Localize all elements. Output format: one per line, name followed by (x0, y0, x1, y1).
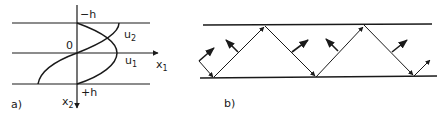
ray-segment-4 (364, 25, 413, 75)
normal-vector-4 (392, 40, 407, 52)
origin-label: 0 (66, 39, 73, 52)
panel-b: b) (199, 24, 437, 110)
bottom-boundary-label: +h (81, 86, 97, 99)
lower-wall (200, 76, 437, 78)
incident-ray (199, 61, 213, 77)
panel-a: −h 0 +h u2 u1 x1 x2 a) (11, 5, 168, 111)
u1-label: u1 (125, 54, 137, 69)
diagram-canvas: −h 0 +h u2 u1 x1 x2 a) (0, 0, 441, 118)
normal-vector-3 (326, 39, 338, 51)
ray-segment-2 (265, 26, 315, 76)
normal-vector-2 (292, 40, 308, 52)
normal-vector-0 (199, 48, 214, 61)
x1-axis-label: x1 (156, 58, 168, 73)
ray-segment-1 (214, 27, 264, 77)
u2-label: u2 (124, 28, 136, 43)
top-boundary-label: −h (80, 8, 96, 21)
ray-segment-3 (316, 27, 363, 77)
upper-wall (203, 24, 432, 25)
panel-b-label: b) (224, 97, 235, 110)
normal-vector-1 (226, 40, 238, 52)
x2-axis-label: x2 (62, 95, 74, 110)
ray-segment-5 (414, 60, 430, 76)
panel-a-label: a) (11, 98, 22, 111)
